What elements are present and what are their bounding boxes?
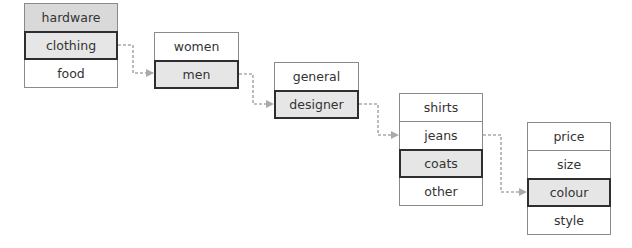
menu-item-label: colour bbox=[550, 185, 589, 200]
menu-item-label: style bbox=[554, 213, 584, 228]
connector-men-to-designer bbox=[239, 74, 273, 104]
menu-item-label: hardware bbox=[42, 10, 101, 25]
menu-item-label: women bbox=[174, 39, 220, 54]
menu-item-hardware[interactable]: hardware bbox=[24, 3, 118, 32]
menu-item-food[interactable]: food bbox=[24, 59, 118, 88]
menu-item-designer[interactable]: designer bbox=[274, 90, 359, 119]
menu-item-women[interactable]: women bbox=[154, 32, 239, 61]
menu-item-men[interactable]: men bbox=[154, 60, 239, 89]
menu-item-jeans[interactable]: jeans bbox=[399, 121, 483, 150]
menu-level-4: shirts jeans coats other bbox=[399, 93, 483, 206]
menu-item-coats[interactable]: coats bbox=[399, 149, 483, 178]
menu-item-size[interactable]: size bbox=[527, 150, 611, 179]
menu-item-style[interactable]: style bbox=[527, 206, 611, 235]
menu-level-2: women men bbox=[154, 32, 239, 89]
menu-item-label: shirts bbox=[424, 100, 458, 115]
menu-item-label: general bbox=[293, 69, 341, 84]
menu-item-label: price bbox=[553, 129, 584, 144]
menu-level-5: price size colour style bbox=[527, 122, 611, 235]
menu-item-colour[interactable]: colour bbox=[527, 178, 611, 207]
menu-item-label: size bbox=[557, 157, 581, 172]
menu-item-other[interactable]: other bbox=[399, 177, 483, 206]
menu-item-label: designer bbox=[289, 97, 343, 112]
menu-item-label: jeans bbox=[424, 128, 457, 143]
menu-level-3: general designer bbox=[274, 62, 359, 119]
menu-item-label: clothing bbox=[46, 38, 96, 53]
menu-item-label: food bbox=[57, 66, 85, 81]
connector-clothing-to-men bbox=[118, 45, 153, 73]
menu-item-label: other bbox=[424, 184, 457, 199]
menu-level-1: hardware clothing food bbox=[24, 3, 118, 88]
menu-item-clothing[interactable]: clothing bbox=[24, 31, 118, 60]
menu-item-label: men bbox=[183, 67, 211, 82]
menu-item-general[interactable]: general bbox=[274, 62, 359, 91]
connector-jeans-to-colour bbox=[483, 135, 526, 192]
menu-item-shirts[interactable]: shirts bbox=[399, 93, 483, 122]
menu-item-label: coats bbox=[424, 156, 458, 171]
menu-item-price[interactable]: price bbox=[527, 122, 611, 151]
connector-designer-to-jeans bbox=[359, 104, 398, 135]
